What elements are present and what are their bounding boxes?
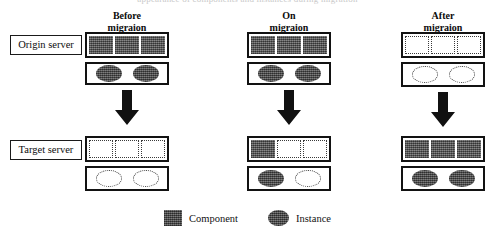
instance-swatch-icon bbox=[268, 210, 289, 226]
instance-slot-placeholder bbox=[295, 170, 321, 187]
row-label-target-server: Target server bbox=[10, 140, 82, 160]
component-slot bbox=[89, 36, 113, 54]
component-swatch-icon bbox=[164, 210, 182, 226]
component-slot-placeholder bbox=[405, 36, 429, 54]
component-slot-placeholder bbox=[141, 140, 165, 158]
component-bay bbox=[247, 136, 331, 162]
instance-slot bbox=[449, 170, 475, 187]
component-slot bbox=[457, 140, 481, 158]
component-slot bbox=[277, 36, 301, 54]
legend-entry-component: Component bbox=[164, 210, 238, 226]
legend-label-component: Component bbox=[189, 213, 238, 224]
instance-slot bbox=[133, 65, 159, 82]
instance-slot bbox=[96, 65, 122, 82]
instance-bay bbox=[401, 62, 485, 87]
instance-bay bbox=[85, 166, 169, 191]
cut-off-caption: appearance of components and instances d… bbox=[0, 0, 495, 5]
row-label-target-server-text: Target server bbox=[11, 141, 81, 158]
column-header-after: After migraion bbox=[401, 10, 485, 33]
component-slot-placeholder bbox=[431, 36, 455, 54]
component-slot bbox=[303, 36, 327, 54]
row-label-origin-server: Origin server bbox=[10, 35, 82, 55]
instance-bay bbox=[85, 62, 169, 85]
instance-slot-placeholder bbox=[449, 66, 475, 83]
column-header-after-line1: After bbox=[401, 10, 485, 22]
component-slot-placeholder bbox=[457, 36, 481, 54]
instance-bay bbox=[401, 166, 485, 191]
column-header-before: Before migraion bbox=[85, 10, 169, 33]
down-arrow-icon bbox=[114, 90, 140, 126]
instance-slot bbox=[295, 65, 321, 82]
instance-bay bbox=[247, 62, 331, 85]
column-header-before-line1: Before bbox=[85, 10, 169, 22]
component-bay bbox=[85, 32, 169, 58]
column-header-on: On migraion bbox=[247, 10, 331, 33]
legend-label-instance: Instance bbox=[296, 213, 331, 224]
component-bay bbox=[401, 136, 485, 162]
instance-slot-placeholder bbox=[133, 170, 159, 187]
component-slot-placeholder bbox=[303, 140, 327, 158]
instance-slot-placeholder bbox=[412, 66, 438, 83]
component-bay bbox=[401, 32, 485, 58]
down-arrow-icon bbox=[430, 92, 456, 128]
component-slot-placeholder bbox=[277, 140, 301, 158]
component-bay bbox=[85, 136, 169, 162]
instance-bay bbox=[247, 166, 331, 191]
component-slot-placeholder bbox=[89, 140, 113, 158]
legend-entry-instance: Instance bbox=[268, 210, 331, 226]
legend: Component Instance bbox=[0, 210, 495, 226]
column-header-on-line1: On bbox=[247, 10, 331, 22]
component-slot bbox=[141, 36, 165, 54]
instance-slot bbox=[412, 170, 438, 187]
instance-slot bbox=[258, 65, 284, 82]
down-arrow-icon bbox=[276, 90, 302, 126]
component-slot bbox=[115, 36, 139, 54]
component-slot bbox=[251, 36, 275, 54]
component-slot bbox=[431, 140, 455, 158]
instance-slot bbox=[258, 170, 284, 187]
component-bay bbox=[247, 32, 331, 58]
component-slot-placeholder bbox=[115, 140, 139, 158]
migration-diagram: appearance of components and instances d… bbox=[0, 0, 495, 242]
row-label-origin-server-text: Origin server bbox=[11, 36, 81, 53]
component-slot bbox=[405, 140, 429, 158]
instance-slot-placeholder bbox=[96, 170, 122, 187]
component-slot bbox=[251, 140, 275, 158]
